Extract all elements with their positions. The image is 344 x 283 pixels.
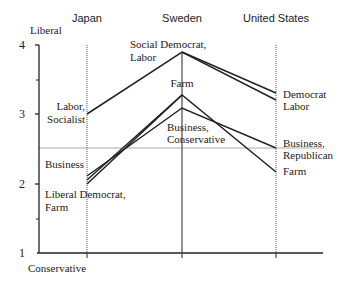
se-farm-label: Farm [170,77,194,89]
se-sd-label: Social Democrat, [130,38,207,50]
us-farm-label: Farm [283,165,307,177]
series-democrat [182,52,276,93]
jp-ld-label: Liberal Democrat, [45,188,126,200]
jp-business-label: Business [45,158,84,170]
tick-3: 3 [19,107,25,121]
us-business-label: Business, [283,137,325,149]
jp-farm-label: Farm [45,201,69,213]
tick-4: 4 [19,38,25,52]
jp-labor-label: Labor, [56,100,85,112]
tick-1: 1 [19,246,25,260]
se-conservative-label: Conservative [167,133,225,145]
liberal-label: Liberal [30,24,62,36]
us-democrat-label: Democrat [283,88,326,100]
parallel-coordinates-chart: Japan Sweden United States Liberal Conse… [0,0,344,283]
se-labor-label: Labor [130,51,157,63]
conservative-label: Conservative [28,262,86,274]
se-business-label: Business, [167,121,209,133]
sweden-label: Sweden [162,12,202,24]
jp-socialist-label: Socialist [47,113,85,125]
us-labor-label: Labor [283,100,310,112]
us-label: United States [243,12,310,24]
us-republican-label: Republican [283,149,334,161]
japan-label: Japan [72,12,102,24]
tick-2: 2 [19,177,25,191]
